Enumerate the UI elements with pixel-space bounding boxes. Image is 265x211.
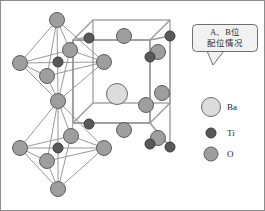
atom-ti: [84, 33, 94, 43]
atom-o: [117, 123, 132, 138]
atom-o: [13, 141, 28, 156]
atom-o: [40, 69, 55, 84]
barium-atoms: [107, 84, 128, 105]
atom-ba: [107, 84, 128, 105]
atom-o: [97, 141, 112, 156]
crystal-structure-figure: A、B位 配位情况 Ba Ti O: [0, 0, 265, 211]
atom-ti: [165, 142, 175, 152]
legend-swatch-ba: [202, 98, 221, 117]
atom-o: [50, 13, 65, 28]
atom-o: [64, 129, 79, 144]
atom-ti: [53, 143, 63, 153]
legend-label-ba: Ba: [227, 102, 237, 112]
atom-o: [51, 94, 66, 109]
atom-ti: [145, 52, 155, 62]
legend-label-ti: Ti: [227, 128, 235, 138]
legend-label-o: O: [227, 149, 234, 159]
atom-o: [117, 29, 132, 44]
atom-o: [51, 182, 66, 197]
callout-line-2: 配位情况: [207, 38, 243, 48]
atom-ti: [53, 57, 63, 67]
callout-line-1: A、B位: [210, 27, 240, 37]
atom-o: [155, 86, 170, 101]
atom-ti: [84, 119, 94, 129]
legend-swatch-o: [204, 147, 218, 161]
legend-swatch-ti: [206, 128, 216, 138]
atom-o: [40, 154, 55, 169]
atom-o: [63, 43, 78, 58]
atom-ti: [165, 31, 175, 41]
atom-o: [97, 55, 112, 70]
atom-ti: [145, 139, 155, 149]
atom-o: [139, 98, 154, 113]
atom-o: [13, 56, 28, 71]
